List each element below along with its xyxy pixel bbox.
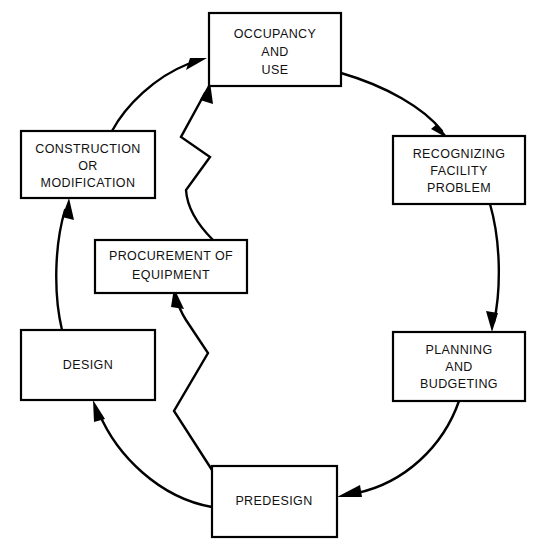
node-label-line: AND bbox=[445, 360, 473, 374]
node-recognizing-facility-problem[interactable]: RECOGNIZING FACILITY PROBLEM bbox=[393, 136, 525, 204]
node-label-line: RECOGNIZING bbox=[413, 147, 506, 161]
connector-path bbox=[174, 299, 212, 470]
connector-predesign-to-procurement bbox=[171, 288, 212, 470]
connector-path bbox=[56, 210, 65, 330]
connector-predesign-to-design bbox=[93, 400, 212, 507]
node-label-line: EQUIPMENT bbox=[132, 268, 210, 282]
node-label-line: CONSTRUCTION bbox=[35, 142, 141, 156]
node-label-line: PLANNING bbox=[425, 343, 492, 357]
connector-path bbox=[181, 93, 213, 240]
node-box[interactable] bbox=[95, 240, 247, 293]
arrowhead bbox=[186, 58, 207, 70]
facility-life-cycle-diagram: OCCUPANCY AND USE RECOGNIZING FACILITY P… bbox=[0, 0, 541, 552]
arrowhead bbox=[62, 198, 74, 220]
connector-recognizing-to-planning bbox=[486, 204, 499, 332]
node-layer: OCCUPANCY AND USE RECOGNIZING FACILITY P… bbox=[21, 13, 525, 537]
node-label-line: USE bbox=[262, 63, 289, 77]
connector-procurement-to-occupancy bbox=[181, 82, 213, 240]
node-label-line: DESIGN bbox=[63, 358, 113, 372]
node-label-line: OR bbox=[78, 159, 98, 173]
arrowhead bbox=[486, 311, 498, 332]
arrowhead bbox=[93, 400, 105, 422]
arrowhead bbox=[337, 485, 362, 497]
connector-path bbox=[112, 64, 188, 131]
connector-path bbox=[357, 401, 459, 493]
node-label-line: FACILITY bbox=[430, 164, 488, 178]
connector-path bbox=[490, 204, 499, 322]
node-occupancy-and-use[interactable]: OCCUPANCY AND USE bbox=[209, 13, 341, 86]
node-label-line: AND bbox=[261, 45, 289, 59]
node-label-line: PROBLEM bbox=[427, 181, 491, 195]
diagram-canvas: OCCUPANCY AND USE RECOGNIZING FACILITY P… bbox=[0, 0, 541, 552]
node-procurement-of-equipment[interactable]: PROCUREMENT OF EQUIPMENT bbox=[95, 240, 247, 293]
node-label-line: OCCUPANCY bbox=[234, 27, 317, 41]
node-design[interactable]: DESIGN bbox=[21, 330, 155, 400]
node-label-line: PREDESIGN bbox=[235, 494, 312, 508]
node-planning-and-budgeting[interactable]: PLANNING AND BUDGETING bbox=[393, 332, 525, 401]
connector-construction-to-occupancy bbox=[112, 58, 207, 131]
connector-path bbox=[99, 413, 212, 507]
connector-planning-to-predesign bbox=[337, 401, 459, 497]
node-label-line: PROCUREMENT OF bbox=[109, 249, 233, 263]
node-label-line: BUDGETING bbox=[420, 377, 498, 391]
node-construction-or-modification[interactable]: CONSTRUCTION OR MODIFICATION bbox=[21, 131, 155, 198]
connector-occupancy-to-recognizing bbox=[341, 73, 449, 139]
node-label-line: MODIFICATION bbox=[41, 176, 136, 190]
connector-path bbox=[341, 73, 442, 131]
node-predesign[interactable]: PREDESIGN bbox=[212, 466, 337, 537]
connector-design-to-construction bbox=[56, 198, 74, 330]
